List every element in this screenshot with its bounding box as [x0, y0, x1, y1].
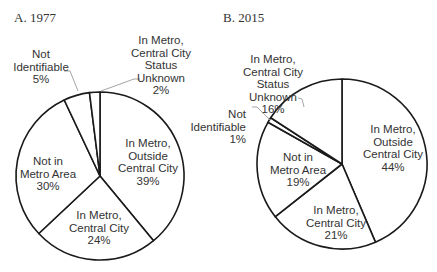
leader-line-in-metro-central-city-status-unknown	[101, 79, 140, 91]
pie-chart-1977: In Metro,OutsideCentral City39%In Metro,…	[13, 34, 191, 260]
figure: A. 1977 B. 2015 In Metro,OutsideCentral …	[0, 0, 437, 272]
slice-label-in-metro-central-city-status-unknown: In Metro,Central CityStatusUnknown2%	[131, 34, 191, 96]
pie-chart-2015: In Metro,OutsideCentral City44%In Metro,…	[190, 53, 427, 249]
slice-label-not-identifiable: NotIdentifiable1%	[190, 108, 246, 145]
slice-label-not-identifiable: NotIdentifiable5%	[13, 48, 69, 85]
leader-line-not-identifiable	[64, 71, 78, 91]
pie-charts-canvas: In Metro,OutsideCentral City39%In Metro,…	[0, 0, 437, 272]
